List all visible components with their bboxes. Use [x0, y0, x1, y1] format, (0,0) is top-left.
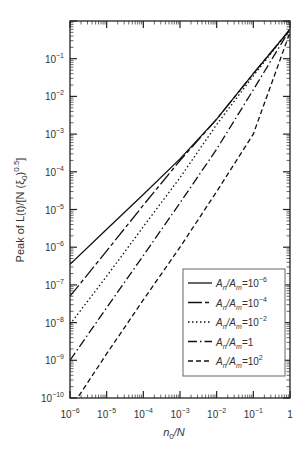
y-tick-label: 10−3 — [45, 127, 64, 140]
x-tick-label: 10−5 — [97, 407, 116, 420]
y-tick-label: 10−7 — [45, 278, 64, 291]
x-tick-label: 10−6 — [60, 407, 79, 420]
x-axis-label: n0/N — [163, 426, 185, 441]
curve-longdash — [70, 29, 290, 296]
chart-svg: 10−610−510−410−310−210−1110−1010−910−810… — [0, 0, 307, 456]
legend: An/Am=10−6An/Am=10−4An/Am=10−2An/Am=1An/… — [183, 269, 285, 376]
y-tick-label: 10−2 — [45, 89, 64, 102]
y-tick-label: 10−9 — [45, 353, 64, 366]
y-tick-label: 10−5 — [45, 203, 64, 216]
chart: 10−610−510−410−310−210−1110−1010−910−810… — [0, 0, 307, 456]
x-tick-label: 10−4 — [134, 407, 153, 420]
x-tick-label: 10−2 — [207, 407, 226, 420]
y-tick-label: 10−10 — [41, 391, 64, 404]
curve-solid — [70, 29, 290, 264]
y-axis-label: Peak of L(t)/[N (ξ0)0.5] — [12, 158, 29, 263]
x-tick-label: 10−3 — [170, 407, 189, 420]
y-tick-label: 10−6 — [45, 240, 64, 253]
x-tick-label: 10−1 — [244, 407, 263, 420]
x-tick-label: 1 — [287, 409, 293, 420]
y-tick-label: 10−4 — [45, 165, 64, 178]
y-tick-label: 10−1 — [45, 52, 64, 65]
y-tick-label: 10−8 — [45, 316, 64, 329]
